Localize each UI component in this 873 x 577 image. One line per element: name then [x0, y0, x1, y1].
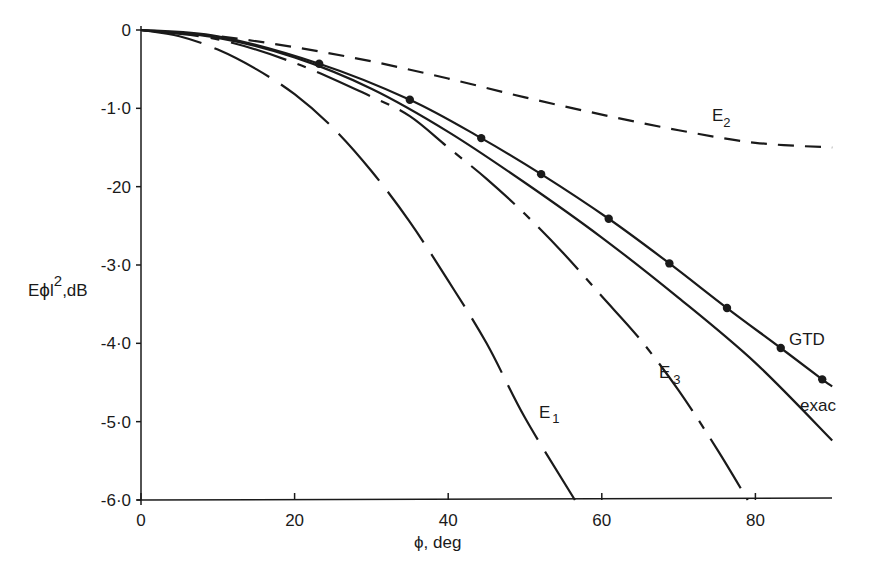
y-axis-label: Eϕl2,dB	[28, 272, 88, 300]
axes: 0-1·0-20-3·0-4·0-5·0-6·0 020406080	[101, 21, 832, 530]
gtd-marker	[777, 344, 785, 352]
x-axis-label: ϕ, deg	[414, 533, 461, 552]
x-axis	[137, 498, 832, 500]
gtd-marker	[605, 215, 613, 223]
gtd-marker	[477, 134, 485, 142]
label-exact: exac	[800, 396, 836, 415]
x-tick-label: 0	[136, 511, 145, 530]
x-tick-label: 60	[592, 511, 611, 530]
gtd-marker	[818, 375, 826, 383]
label-e2: E2	[712, 106, 731, 130]
y-tick-label: -6·0	[101, 491, 131, 510]
label-gtd: GTD	[789, 330, 825, 349]
line-chart: 0-1·0-20-3·0-4·0-5·0-6·0 020406080 Eϕl2,…	[0, 0, 873, 577]
label-e1: E1	[539, 403, 560, 426]
gtd-marker	[537, 170, 545, 178]
y-tick-label: -4·0	[101, 334, 131, 353]
curve-gtd	[141, 30, 832, 386]
y-tick-label: 0	[122, 21, 131, 40]
y-tick-label: -3·0	[101, 256, 131, 275]
curve-e3	[141, 30, 748, 500]
curves	[141, 30, 832, 500]
x-tick-label: 40	[439, 511, 458, 530]
x-tick-label: 80	[746, 511, 765, 530]
y-tick-label: -20	[106, 178, 131, 197]
x-tick-label: 20	[285, 511, 304, 530]
y-axis-label-text: Eϕl2,dB	[28, 272, 88, 300]
curve-exact	[141, 30, 832, 440]
y-tick-label: -5·0	[101, 413, 131, 432]
gtd-marker	[406, 96, 414, 104]
label-e3: E3	[659, 363, 681, 387]
y-ticks: 0-1·0-20-3·0-4·0-5·0-6·0	[101, 21, 141, 510]
gtd-marker	[665, 259, 673, 267]
y-tick-label: -1·0	[101, 99, 131, 118]
curve-e1	[141, 30, 575, 500]
curve-labels: E2 GTD exac E3 E1	[539, 106, 836, 426]
gtd-marker	[723, 304, 731, 312]
gtd-marker	[315, 59, 323, 67]
